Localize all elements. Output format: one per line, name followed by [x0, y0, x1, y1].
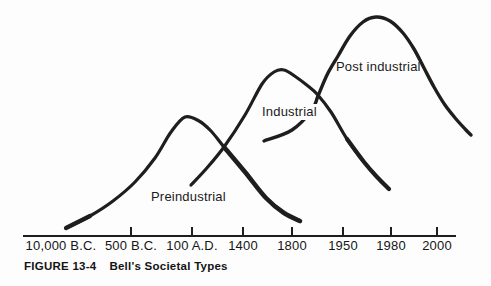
axis-label-1950: 1950 [328, 239, 358, 253]
figure-title: Bell's Societal Types [109, 260, 227, 272]
axis-label-10000-bc: 10,000 B.C. [26, 239, 97, 253]
curve-preindustrial [66, 117, 300, 228]
curve-preindustrial-thick-segment [66, 216, 90, 228]
curve-industrial-thick-segment [347, 139, 389, 189]
axis-label-500-bc: 500 B.C. [105, 239, 157, 253]
curve-label-industrial: Industrial [261, 104, 319, 120]
curve-label-post-industrial: Post industrial [336, 59, 421, 74]
figure-page: Preindustrial Industrial Post industrial… [0, 0, 491, 286]
axis-label-1400: 1400 [228, 239, 258, 253]
curve-preindustrial-thick-segment [224, 147, 300, 221]
axis-label-1980: 1980 [376, 239, 406, 253]
axis-label-100-ad: 100 A.D. [166, 239, 217, 253]
figure-number: FIGURE 13-4 [24, 260, 96, 272]
figure-caption: FIGURE 13-4Bell's Societal Types [24, 260, 228, 273]
curve-label-preindustrial: Preindustrial [151, 189, 226, 204]
curve-post-industrial [264, 17, 471, 141]
axis-label-1800: 1800 [277, 239, 307, 253]
axis-label-2000: 2000 [422, 239, 452, 253]
